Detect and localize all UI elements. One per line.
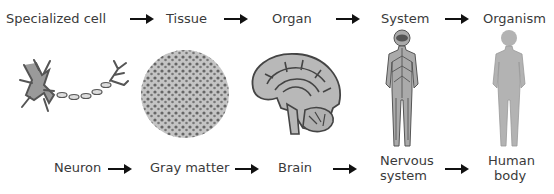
neuron-icon [14, 55, 129, 115]
arrow-icon [130, 18, 152, 20]
gray-matter-tissue-icon [139, 48, 231, 140]
human-body-figure-icon [489, 28, 529, 150]
arrow-icon [235, 168, 257, 170]
label-human-line1: Human [488, 153, 532, 168]
arrow-icon [224, 18, 246, 20]
label-nervous-line2: system [380, 168, 424, 183]
arrow-icon [336, 18, 358, 20]
label-organ: Organ [272, 11, 312, 26]
label-gray-matter: Gray matter [150, 160, 229, 175]
label-tissue: Tissue [166, 11, 207, 26]
label-human-line2: body [488, 168, 532, 183]
arrow-icon [108, 168, 130, 170]
label-brain: Brain [278, 160, 312, 175]
arrow-icon [333, 168, 355, 170]
arrow-icon [445, 18, 467, 20]
nervous-system-figure-icon [382, 28, 422, 150]
label-organism: Organism [483, 11, 546, 26]
label-neuron: Neuron [54, 160, 101, 175]
label-human-body: Human body [488, 153, 532, 183]
label-nervous-line1: Nervous [380, 153, 424, 168]
arrow-icon [445, 168, 467, 170]
brain-icon [245, 48, 347, 140]
label-specialized-cell: Specialized cell [6, 11, 106, 26]
label-nervous-system: Nervous system [380, 153, 424, 183]
label-system: System [381, 11, 429, 26]
